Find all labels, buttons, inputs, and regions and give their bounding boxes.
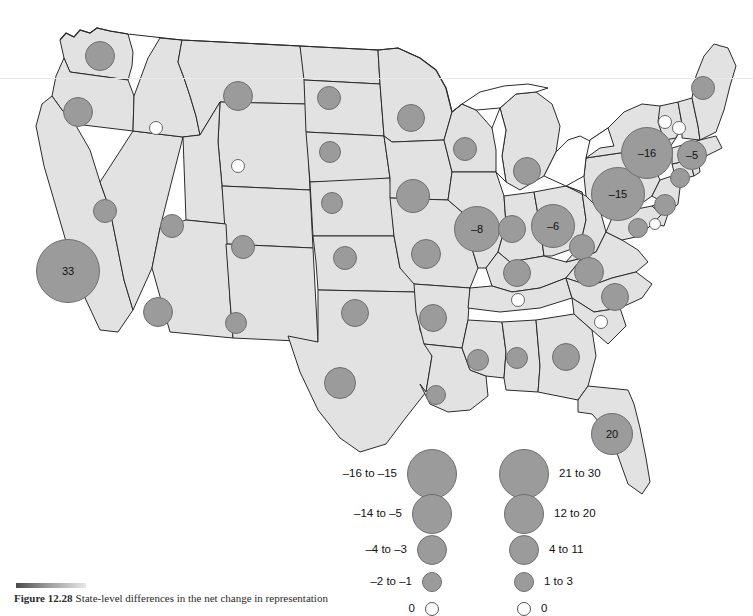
bubble-california: 33 (36, 239, 100, 303)
figure-caption: Figure 12.28 State-level differences in … (14, 592, 744, 605)
state-wisconsin (444, 104, 500, 172)
bubble-new-hampshire (672, 121, 686, 135)
legend-pos-swatch-0 (499, 449, 549, 499)
legend-pos-label-0: 21 to 30 (559, 467, 601, 479)
bubble-texas (324, 367, 356, 399)
bubble-nebraska (321, 192, 343, 214)
bubble-wisconsin (453, 137, 477, 161)
bubble-kentucky (503, 259, 531, 287)
legend-neg-label-3: –2 to –1 (370, 575, 412, 587)
bubble-utah (160, 214, 184, 238)
map-legend: –16 to –15–14 to –5–4 to –3–2 to –1021 t… (386, 446, 686, 566)
bubble-vermont (658, 115, 672, 129)
bubble-maryland (628, 218, 648, 238)
bubble-oregon (63, 97, 93, 127)
bubble-value-label: –6 (547, 221, 559, 232)
bubble-montana (223, 81, 253, 111)
caption-text: State-level differences in the net chang… (76, 592, 328, 604)
legend-neg-swatch-3 (422, 572, 442, 592)
bubble-virginia (574, 257, 604, 287)
bubble-south-dakota (319, 141, 341, 163)
bubble-louisiana (426, 385, 446, 405)
bubble-michigan (513, 157, 541, 185)
legend-neg-swatch-2 (417, 535, 447, 565)
bubble-colorado (231, 235, 255, 259)
bubble-minnesota (397, 104, 425, 132)
state-southdakota (304, 80, 384, 136)
bubble-value-label: 33 (62, 266, 74, 277)
bubble-value-label: 20 (606, 429, 618, 440)
bubble-idaho (149, 121, 163, 135)
bubble-massachusetts: –5 (677, 140, 707, 170)
legend-pos-swatch-1 (504, 494, 544, 534)
legend-pos-label-1: 12 to 20 (554, 507, 596, 519)
bubble-kansas (333, 246, 357, 270)
legend-pos-swatch-3 (514, 572, 534, 592)
legend-pos-swatch-2 (509, 535, 539, 565)
legend-neg-swatch-0 (407, 449, 457, 499)
bubble-indiana (498, 215, 526, 243)
bubble-missouri (411, 239, 441, 269)
legend-neg-label-1: –14 to –5 (354, 507, 402, 519)
bubble-georgia (552, 343, 580, 371)
bubble-delaware (649, 218, 661, 230)
bubble-connecticut (670, 168, 690, 188)
state-northdakota (300, 46, 380, 84)
legend-neg-swatch-1 (412, 494, 452, 534)
bubble-value-label: –8 (471, 224, 483, 235)
legend-neg-label-2: –4 to –3 (365, 543, 407, 555)
bubble-value-label: –15 (609, 189, 627, 200)
caption-rule (16, 583, 86, 588)
legend-pos-label-2: 4 to 11 (549, 543, 583, 555)
bubble-iowa (396, 179, 430, 213)
bubble-south-carolina (594, 315, 608, 329)
caption-number: Figure 12.28 (14, 592, 72, 604)
bubble-alabama (506, 347, 528, 369)
legend-neg-label-0: –16 to –15 (343, 467, 397, 479)
bubble-north-dakota (317, 86, 341, 110)
bubble-oklahoma (341, 299, 369, 327)
bubble-mississippi (467, 349, 489, 371)
bubble-new-mexico (225, 312, 247, 334)
legend-pos-label-3: 1 to 3 (544, 575, 573, 587)
bubble-west-virginia (569, 234, 595, 260)
state-nebraska (306, 132, 390, 182)
bubble-maine (691, 76, 715, 100)
bubble-illinois: –8 (454, 206, 500, 252)
bubble-arizona (143, 297, 173, 327)
bubble-value-label: –5 (686, 150, 698, 161)
bubble-washington (85, 41, 115, 71)
bubble-nevada (93, 199, 117, 223)
bubble-ohio: –6 (531, 204, 575, 248)
bubble-new-jersey (654, 194, 676, 216)
bubble-arkansas (419, 304, 447, 332)
bubble-new-york: –16 (621, 127, 673, 179)
bubble-north-carolina (601, 283, 629, 311)
bubble-value-label: –16 (638, 148, 656, 159)
bubble-tennessee (511, 293, 525, 307)
bubble-wyoming (231, 159, 245, 173)
state-wyoming (218, 102, 310, 190)
